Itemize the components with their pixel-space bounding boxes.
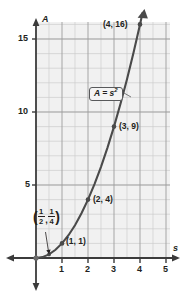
point-label-3-9: (3, 9) — [119, 121, 139, 131]
equation-callout: A = s2 — [89, 87, 123, 101]
x-tick-label-3: 3 — [111, 264, 116, 274]
graph-figure: A s 15 10 5 1 2 3 4 5 (4, 16) (3, 9) (2,… — [0, 0, 191, 295]
y-axis-label: A — [42, 14, 49, 24]
x-axis-label: s — [173, 243, 178, 253]
equation-exponent: 2 — [114, 87, 117, 93]
marker-1-1 — [60, 241, 65, 246]
point-label-2-4: (2, 4) — [93, 194, 113, 204]
marker-origin — [33, 255, 38, 260]
point-label-1-1: (1, 1) — [66, 236, 86, 246]
coordinate-plane-svg — [0, 0, 191, 295]
point-label-4-16: (4, 16) — [103, 19, 128, 29]
x-tick-label-5: 5 — [163, 264, 168, 274]
marker-3-9 — [112, 124, 117, 129]
point-label-half-quarter: ( 1 2 , 1 4 ) — [33, 208, 60, 225]
equation-base: A = s — [94, 88, 114, 98]
x-axis-arrow-left — [6, 255, 14, 262]
y-tick-label-5: 5 — [25, 179, 30, 189]
fraction-x-half: 1 2 — [38, 208, 45, 225]
y-tick-label-15: 15 — [18, 33, 28, 43]
curve-arrowhead — [138, 9, 148, 19]
fraction-close-paren: ) — [55, 210, 60, 224]
x-axis-arrow-right — [172, 255, 180, 262]
fraction-y-denominator: 4 — [50, 218, 54, 226]
marker-2-4 — [86, 197, 91, 202]
y-axis-arrow-down — [33, 283, 40, 291]
fraction-y-numerator: 1 — [50, 208, 54, 216]
fraction-x-numerator: 1 — [39, 208, 43, 216]
x-tick-label-4: 4 — [137, 264, 142, 274]
fraction-x-denominator: 2 — [39, 218, 43, 226]
y-tick-label-10: 10 — [18, 106, 28, 116]
x-tick-label-1: 1 — [59, 264, 64, 274]
x-tick-label-2: 2 — [85, 264, 90, 274]
marker-4-16 — [138, 22, 143, 27]
fraction-y-quarter: 1 4 — [48, 208, 55, 225]
